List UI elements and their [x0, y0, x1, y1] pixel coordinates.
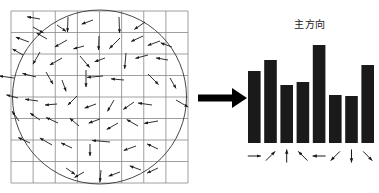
- gradient-arrow: [61, 143, 72, 148]
- gradient-arrow: [125, 53, 126, 69]
- gradient-arrow: [109, 172, 120, 176]
- direction-tick-north-west: [298, 151, 307, 160]
- histogram-bar: [280, 85, 293, 143]
- gradient-arrow: [25, 99, 38, 101]
- gradient-arrow: [37, 33, 47, 39]
- gradient-arrow: [80, 56, 90, 67]
- gradient-arrow: [89, 119, 100, 123]
- gradient-arrow: [109, 38, 120, 49]
- gradient-arrow: [85, 104, 96, 108]
- histogram-bar: [345, 96, 358, 143]
- histogram-bar: [297, 82, 310, 143]
- histogram-bar: [248, 71, 261, 143]
- gradient-arrow: [57, 25, 66, 31]
- gradient-arrow-group: [0, 17, 188, 182]
- figure-root: 主方向: [0, 0, 379, 193]
- orientation-histogram-panel: 主方向: [240, 0, 379, 193]
- gradient-arrow: [124, 146, 136, 150]
- gradient-arrow: [170, 78, 176, 88]
- gradient-arrow: [147, 144, 158, 149]
- gradient-arrow: [130, 166, 141, 170]
- gradient-arrow: [16, 37, 29, 42]
- histogram-bar: [264, 60, 277, 143]
- gradient-arrow: [66, 168, 75, 174]
- histogram-bar: [361, 65, 374, 143]
- gradient-arrow: [46, 72, 53, 84]
- gradient-arrow: [123, 102, 134, 109]
- gradient-arrow: [127, 120, 138, 127]
- gradient-patch-panel: [0, 0, 200, 193]
- gradient-arrow: [82, 20, 93, 24]
- dominant-direction-label: 主方向: [294, 16, 326, 31]
- gradient-arrow: [74, 172, 84, 178]
- gradient-arrow: [138, 103, 152, 105]
- gradient-arrow: [144, 121, 158, 123]
- gradient-arrow: [55, 40, 67, 47]
- gradient-arrow: [131, 36, 143, 41]
- direction-tick-south-west: [331, 151, 340, 160]
- gradient-arrow: [0, 76, 14, 78]
- patch-grid: [11, 11, 188, 183]
- gradient-arrow: [108, 100, 115, 111]
- gradient-arrow: [119, 17, 120, 33]
- direction-tick-north-east: [266, 151, 275, 160]
- histogram-bars: [248, 45, 374, 143]
- gradient-patch-svg: [0, 0, 200, 193]
- gradient-arrow: [135, 55, 148, 58]
- gradient-arrow: [50, 58, 62, 65]
- gradient-arrow: [27, 17, 40, 19]
- gradient-arrow: [161, 43, 172, 47]
- direction-tick-south-east: [363, 151, 372, 160]
- histogram-bar: [313, 45, 326, 143]
- gradient-arrow: [87, 76, 103, 77]
- histogram-bar: [329, 95, 342, 143]
- histogram-direction-ticks: [248, 150, 372, 163]
- gradient-arrow: [111, 79, 124, 80]
- gradient-arrow: [62, 80, 66, 91]
- gradient-arrow: [67, 17, 68, 32]
- gradient-arrow: [92, 140, 110, 142]
- gradient-arrow: [148, 41, 160, 45]
- gradient-arrow: [73, 46, 84, 49]
- gradient-arrow: [107, 123, 118, 130]
- gradient-arrow: [30, 113, 40, 120]
- gradient-arrow: [40, 138, 52, 145]
- gradient-arrow: [100, 170, 101, 182]
